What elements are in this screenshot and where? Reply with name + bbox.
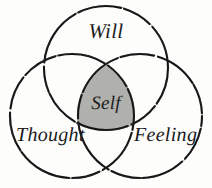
circle-label-feeling: Feeling	[134, 123, 197, 147]
intersection-label-self: Self	[0, 93, 212, 115]
circle-label-will: Will	[0, 19, 212, 43]
circle-label-thought: Thought	[16, 123, 85, 147]
venn-diagram: Will Thought Feeling Self	[0, 0, 212, 188]
